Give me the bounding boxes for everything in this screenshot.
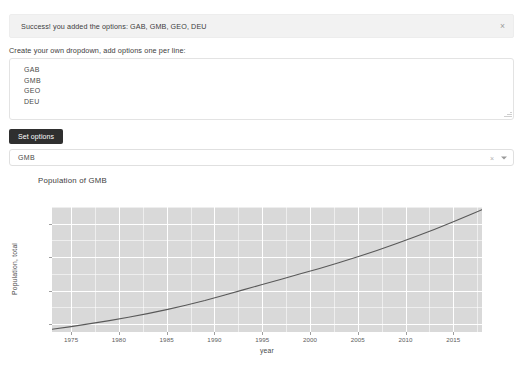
options-textarea-wrapper xyxy=(9,58,514,120)
chart-y-axis-label: Population, total xyxy=(11,243,18,295)
chart-series-line xyxy=(52,207,482,332)
chart-x-axis-label: year xyxy=(260,347,274,354)
series-line xyxy=(52,210,482,330)
x-axis-tick-label: 2005 xyxy=(351,336,365,343)
country-dropdown[interactable]: GMB × xyxy=(9,149,514,166)
chart-title: Population of GMB xyxy=(38,176,107,185)
dropdown-icons: × xyxy=(490,154,507,161)
dropdown-selected-value: GMB xyxy=(18,154,35,161)
y-axis-tick-mark xyxy=(49,224,52,225)
x-axis-tick-label: 2015 xyxy=(446,336,460,343)
x-axis-tick-mark xyxy=(310,332,311,335)
x-axis-tick-label: 1975 xyxy=(64,336,78,343)
x-axis-tick-mark xyxy=(453,332,454,335)
options-field-label: Create your own dropdown, add options on… xyxy=(9,46,186,55)
y-axis-tick-mark xyxy=(49,291,52,292)
x-axis-tick-mark xyxy=(406,332,407,335)
x-axis-tick-label: 2010 xyxy=(398,336,412,343)
alert-message: Success! you added the options: GAB, GMB… xyxy=(21,22,207,31)
x-axis-tick-mark xyxy=(214,332,215,335)
x-axis-tick-label: 1990 xyxy=(207,336,221,343)
x-axis-tick-mark xyxy=(119,332,120,335)
x-axis-tick-mark xyxy=(71,332,72,335)
options-textarea[interactable] xyxy=(9,58,514,120)
success-alert: Success! you added the options: GAB, GMB… xyxy=(9,14,514,38)
chevron-down-icon[interactable] xyxy=(501,156,507,159)
x-axis-tick-label: 1995 xyxy=(255,336,269,343)
population-chart: Population of GMB 0.5M1M1.5M2M 197519801… xyxy=(0,172,523,368)
x-axis-tick-label: 1980 xyxy=(112,336,126,343)
clear-selection-icon[interactable]: × xyxy=(490,154,494,161)
x-axis-tick-mark xyxy=(167,332,168,335)
close-icon[interactable]: × xyxy=(500,22,505,31)
page-root: Success! you added the options: GAB, GMB… xyxy=(0,0,523,368)
x-axis-tick-label: 2000 xyxy=(303,336,317,343)
y-axis-tick-mark xyxy=(49,257,52,258)
y-axis-tick-mark xyxy=(49,324,52,325)
x-axis-tick-mark xyxy=(262,332,263,335)
x-axis-tick-mark xyxy=(358,332,359,335)
x-axis-tick-label: 1985 xyxy=(160,336,174,343)
set-options-button[interactable]: Set options xyxy=(9,129,63,144)
